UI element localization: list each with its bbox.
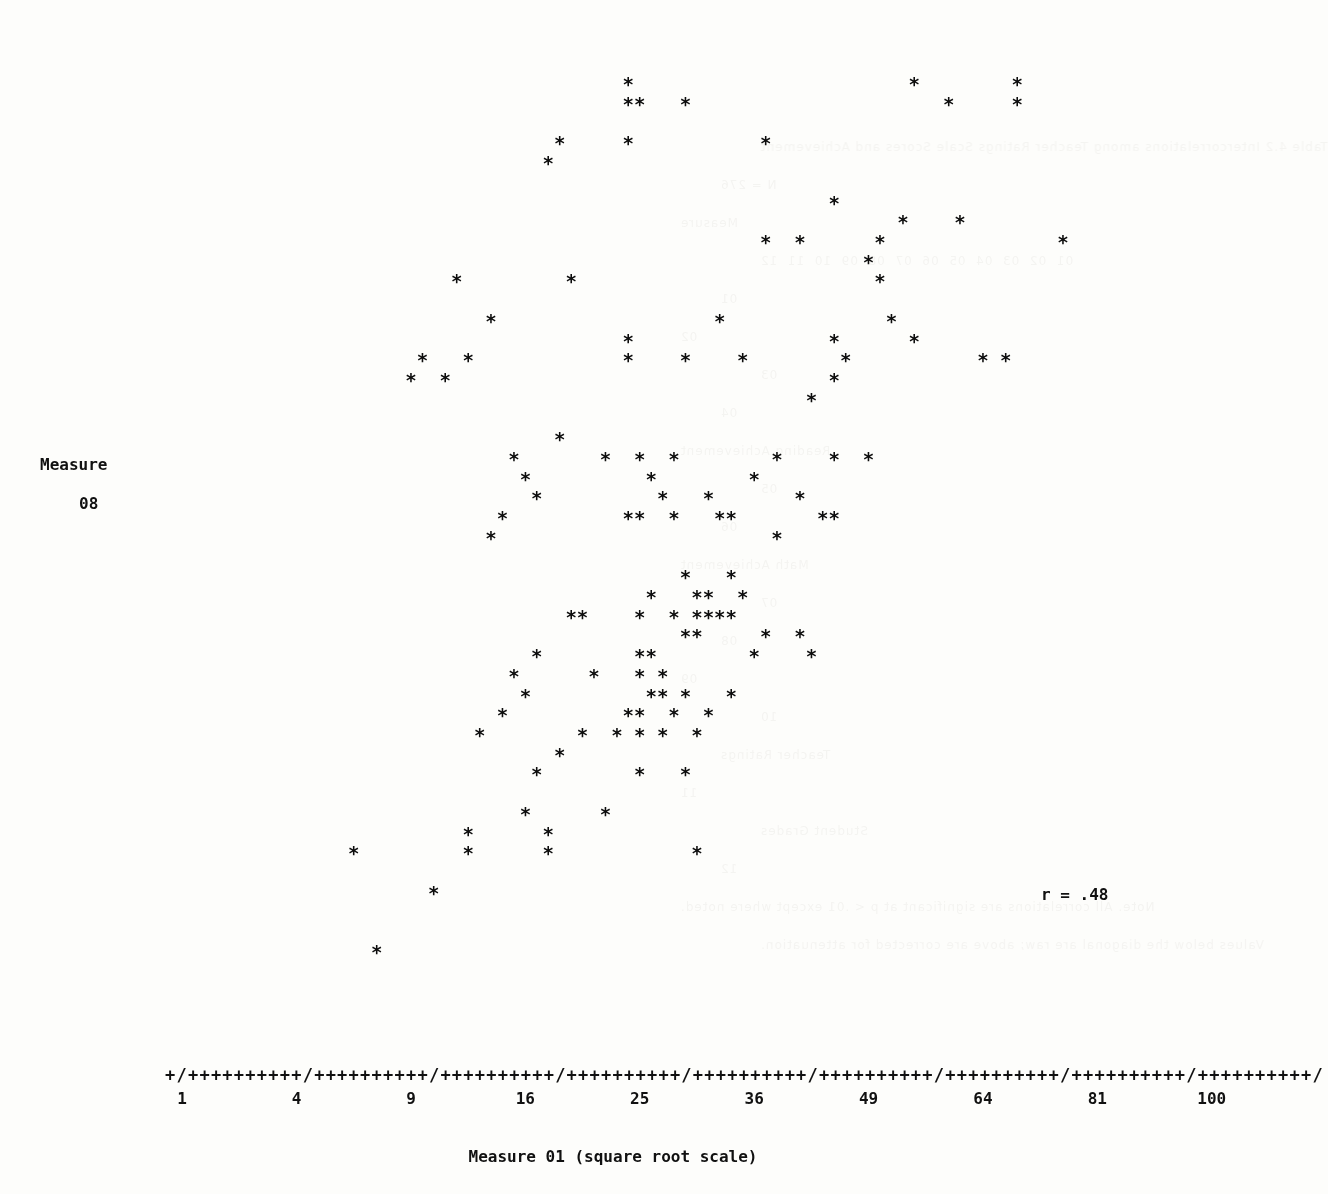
data-point: * <box>611 726 622 746</box>
data-point: * <box>600 805 611 825</box>
x-axis-rule: +/++++++++++/++++++++++/++++++++++/+++++… <box>165 1065 1324 1085</box>
data-point: * <box>634 608 645 628</box>
data-point: * <box>760 627 771 647</box>
data-point: * <box>829 509 840 529</box>
x-axis-title: Measure 01 (square root scale) <box>469 1147 758 1166</box>
data-point: * <box>806 647 817 667</box>
data-point: * <box>668 509 679 529</box>
data-point: * <box>977 351 988 371</box>
x-axis-tick-label: 9 <box>406 1089 416 1108</box>
data-point: * <box>829 194 840 214</box>
data-point: * <box>474 726 485 746</box>
data-point: * <box>886 312 897 332</box>
data-point: * <box>1012 75 1023 95</box>
data-point: * <box>668 450 679 470</box>
data-point: * <box>440 371 451 391</box>
data-point: * <box>428 884 439 904</box>
correlation-annotation: r = .48 <box>1041 885 1108 904</box>
data-point: * <box>588 667 599 687</box>
data-point: * <box>485 312 496 332</box>
data-point: * <box>508 450 519 470</box>
data-point: * <box>623 706 634 726</box>
data-point: * <box>462 351 473 371</box>
data-point: * <box>668 706 679 726</box>
data-point: * <box>520 470 531 490</box>
data-point: * <box>874 233 885 253</box>
data-point: * <box>348 844 359 864</box>
data-point: * <box>623 95 634 115</box>
data-point: * <box>726 568 737 588</box>
data-point: * <box>897 213 908 233</box>
x-axis-tick-label: 4 <box>292 1089 302 1108</box>
data-point: * <box>680 351 691 371</box>
data-point: * <box>634 726 645 746</box>
data-point: * <box>657 687 668 707</box>
data-point: * <box>726 687 737 707</box>
data-point: * <box>748 647 759 667</box>
data-point: * <box>497 706 508 726</box>
data-point: * <box>623 75 634 95</box>
data-point: * <box>520 805 531 825</box>
data-point: * <box>691 844 702 864</box>
data-point: * <box>909 332 920 352</box>
data-point: * <box>680 95 691 115</box>
data-point: * <box>645 470 656 490</box>
data-point: * <box>531 647 542 667</box>
data-point: * <box>645 588 656 608</box>
data-point: * <box>703 608 714 628</box>
data-point: * <box>520 687 531 707</box>
data-point: * <box>703 706 714 726</box>
data-point: * <box>634 667 645 687</box>
data-point: * <box>1000 351 1011 371</box>
data-point: * <box>840 351 851 371</box>
data-point: * <box>829 450 840 470</box>
data-point: * <box>874 272 885 292</box>
data-point: * <box>817 509 828 529</box>
y-axis-title-line1: Measure <box>40 455 107 474</box>
data-point: * <box>645 647 656 667</box>
data-point: * <box>657 726 668 746</box>
data-point: * <box>577 608 588 628</box>
data-point: * <box>600 450 611 470</box>
data-point: * <box>417 351 428 371</box>
x-axis-tick-label: 1 <box>177 1089 187 1108</box>
data-point: * <box>680 687 691 707</box>
data-point: * <box>737 351 748 371</box>
data-point: * <box>760 233 771 253</box>
data-point: * <box>806 391 817 411</box>
x-axis-tick-label: 49 <box>859 1089 878 1108</box>
data-point: * <box>954 213 965 233</box>
data-point: * <box>623 509 634 529</box>
data-point: * <box>943 95 954 115</box>
data-point: * <box>863 450 874 470</box>
data-point: * <box>829 332 840 352</box>
data-point: * <box>1012 95 1023 115</box>
data-point: * <box>680 568 691 588</box>
data-point: * <box>863 253 874 273</box>
data-point: * <box>565 272 576 292</box>
data-point: * <box>771 450 782 470</box>
data-point: * <box>703 489 714 509</box>
data-point: * <box>543 844 554 864</box>
y-axis-title-line2: 08 <box>79 494 98 513</box>
data-point: * <box>554 746 565 766</box>
x-axis-tick-label: 36 <box>745 1089 764 1108</box>
data-point: * <box>691 588 702 608</box>
data-point: * <box>508 667 519 687</box>
data-point: * <box>405 371 416 391</box>
data-point: * <box>726 509 737 529</box>
data-point: * <box>531 489 542 509</box>
data-point: * <box>771 529 782 549</box>
data-point: * <box>680 627 691 647</box>
x-axis-tick-label: 64 <box>973 1089 992 1108</box>
data-point: * <box>634 765 645 785</box>
data-point: * <box>645 687 656 707</box>
data-point: * <box>668 608 679 628</box>
data-point: * <box>703 588 714 608</box>
data-point: * <box>497 509 508 529</box>
data-point: * <box>485 529 496 549</box>
data-point: * <box>829 371 840 391</box>
data-point: * <box>554 430 565 450</box>
data-point: * <box>577 726 588 746</box>
